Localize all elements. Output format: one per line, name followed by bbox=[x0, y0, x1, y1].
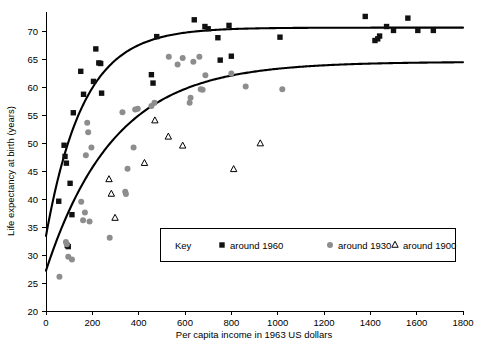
x-tick-label: 200 bbox=[84, 317, 100, 328]
data-point-triangle bbox=[112, 214, 118, 220]
x-tick-labels: 020040060080010001200140016001800 bbox=[43, 317, 473, 328]
data-point-circle bbox=[78, 199, 84, 205]
y-tick-label: 70 bbox=[27, 26, 38, 37]
data-point-circle bbox=[187, 100, 193, 106]
x-tick-label: 1800 bbox=[452, 317, 473, 328]
x-tick-label: 1000 bbox=[267, 317, 288, 328]
x-tick-label: 0 bbox=[43, 317, 48, 328]
legend-title: Key bbox=[175, 240, 192, 251]
data-point-circle bbox=[88, 144, 94, 150]
data-point-square bbox=[93, 46, 98, 51]
x-tick-label: 400 bbox=[131, 317, 147, 328]
data-point-circle bbox=[107, 235, 113, 241]
data-point-square bbox=[150, 80, 155, 85]
legend-label: around 1900 bbox=[403, 240, 456, 251]
axes bbox=[42, 12, 463, 315]
legend-label: around 1960 bbox=[230, 240, 283, 251]
data-point-square bbox=[205, 26, 210, 31]
data-point-triangle bbox=[141, 159, 147, 165]
data-point-circle bbox=[200, 87, 206, 93]
data-point-circle bbox=[82, 209, 88, 215]
data-point-triangle bbox=[108, 190, 114, 196]
data-point-circle bbox=[175, 62, 181, 68]
series-around-1960 bbox=[56, 14, 436, 250]
data-point-circle bbox=[135, 106, 141, 112]
data-point-circle bbox=[80, 217, 86, 223]
data-point-circle bbox=[64, 241, 70, 247]
y-tick-labels: 2025303540455055606570 bbox=[27, 26, 38, 317]
data-point-square bbox=[405, 15, 410, 20]
y-tick-label: 50 bbox=[27, 138, 38, 149]
data-point-triangle bbox=[179, 142, 185, 148]
data-point-circle bbox=[83, 152, 89, 158]
y-tick-label: 55 bbox=[27, 110, 38, 121]
data-point-circle bbox=[279, 86, 285, 92]
data-point-circle bbox=[188, 95, 194, 101]
data-point-square bbox=[226, 23, 231, 28]
x-tick-label: 800 bbox=[223, 317, 239, 328]
y-tick-label: 35 bbox=[27, 222, 38, 233]
legend-label: around 1930 bbox=[338, 240, 391, 251]
data-point-square bbox=[215, 35, 220, 40]
data-point-square bbox=[377, 33, 382, 38]
fit-1960 bbox=[46, 28, 463, 236]
data-point-square bbox=[61, 143, 66, 148]
data-point-square bbox=[363, 14, 368, 19]
y-tick-label: 40 bbox=[27, 194, 38, 205]
data-point-square bbox=[64, 160, 69, 165]
data-point-square bbox=[431, 28, 436, 33]
data-point-circle bbox=[243, 83, 249, 89]
data-point-triangle bbox=[165, 133, 171, 139]
data-point-square bbox=[56, 199, 61, 204]
y-axis-title: Life expectancy at birth (years) bbox=[5, 106, 16, 236]
data-point-square bbox=[192, 17, 197, 22]
x-tick-marks bbox=[46, 311, 463, 315]
data-point-square bbox=[391, 28, 396, 33]
data-point-square bbox=[78, 69, 83, 74]
data-point-square bbox=[98, 61, 103, 66]
data-point-circle bbox=[56, 274, 62, 280]
y-tick-label: 25 bbox=[27, 278, 38, 289]
data-point-triangle bbox=[152, 117, 158, 123]
data-point-square bbox=[154, 34, 159, 39]
data-point-square bbox=[69, 212, 74, 217]
scatter-plot: 020040060080010001200140016001800 202530… bbox=[0, 0, 482, 349]
y-tick-label: 30 bbox=[27, 250, 38, 261]
data-point-square bbox=[67, 181, 72, 186]
data-point-square bbox=[71, 110, 76, 115]
data-point-circle bbox=[69, 256, 75, 262]
x-tick-label: 1200 bbox=[313, 317, 334, 328]
data-point-circle bbox=[202, 72, 208, 78]
data-point-circle bbox=[84, 120, 90, 126]
y-tick-marks bbox=[42, 31, 46, 311]
data-point-circle bbox=[196, 54, 202, 60]
data-point-circle bbox=[228, 71, 234, 77]
x-tick-label: 1400 bbox=[360, 317, 381, 328]
legend-entries: around 1960around 1930around 1900 bbox=[219, 240, 456, 251]
data-point-square bbox=[99, 90, 104, 95]
y-tick-label: 20 bbox=[27, 306, 38, 317]
y-tick-label: 60 bbox=[27, 82, 38, 93]
data-point-circle bbox=[123, 191, 129, 197]
data-point-triangle bbox=[230, 166, 236, 172]
data-point-circle bbox=[87, 218, 93, 224]
data-point-square bbox=[62, 154, 67, 159]
chart-figure: 020040060080010001200140016001800 202530… bbox=[0, 0, 482, 349]
legend: Key around 1960around 1930around 1900 bbox=[161, 229, 457, 262]
y-tick-label: 45 bbox=[27, 166, 38, 177]
data-point-circle bbox=[151, 100, 157, 106]
data-point-circle bbox=[166, 54, 172, 60]
x-tick-label: 1600 bbox=[406, 317, 427, 328]
data-point-square bbox=[218, 57, 223, 62]
data-point-circle bbox=[125, 166, 131, 172]
x-tick-label: 600 bbox=[177, 317, 193, 328]
x-axis-title: Per capita income in 1963 US dollars bbox=[176, 329, 333, 340]
legend-marker-square bbox=[219, 242, 224, 247]
data-point-square bbox=[81, 92, 86, 97]
data-point-circle bbox=[119, 109, 125, 115]
data-point-square bbox=[229, 54, 234, 59]
data-point-circle bbox=[180, 55, 186, 61]
data-point-circle bbox=[190, 59, 196, 65]
data-point-square bbox=[277, 34, 282, 39]
data-point-square bbox=[91, 79, 96, 84]
